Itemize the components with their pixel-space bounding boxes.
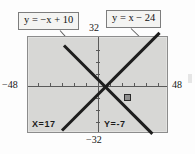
plot-line-positive-slope	[61, 32, 161, 132]
window-xmax-label: 48	[172, 79, 182, 90]
x-axis-tick	[62, 83, 63, 87]
trace-cursor[interactable]	[124, 94, 131, 101]
trace-readout-x: X=17	[32, 119, 56, 129]
y-axis-tick	[96, 62, 100, 63]
y-axis-tick	[96, 122, 100, 123]
trace-readout-y: Y=-7	[104, 119, 126, 129]
x-axis-tick	[134, 83, 135, 87]
y-axis-tick	[96, 98, 100, 99]
page-margin-artifact	[188, 74, 192, 83]
x-axis-tick	[146, 83, 147, 87]
y-axis	[98, 37, 99, 132]
y-axis-tick	[96, 50, 100, 51]
x-axis-tick	[50, 83, 51, 87]
x-axis-tick	[86, 83, 87, 87]
window-ymax-label: 32	[89, 22, 99, 33]
x-axis-tick	[158, 83, 159, 87]
window-ymin-label: −32	[86, 134, 102, 145]
graph-screen[interactable]: X=17 Y=-7	[27, 36, 168, 133]
equation-callout-right: y = x − 24	[106, 10, 161, 28]
y-axis-tick	[96, 74, 100, 75]
x-axis-tick	[122, 83, 123, 87]
equation-callout-left: y = −x + 10	[18, 12, 79, 30]
x-axis-tick	[74, 83, 75, 87]
y-axis-tick	[96, 110, 100, 111]
window-xmin-label: −48	[2, 79, 18, 90]
x-axis-tick	[38, 83, 39, 87]
